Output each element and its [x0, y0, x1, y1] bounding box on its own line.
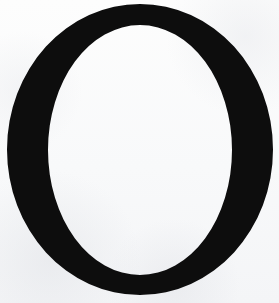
letter-o-path — [7, 4, 273, 295]
letter-o-glyph: O — [0, 0, 279, 303]
scanned-page: O — [0, 0, 279, 303]
